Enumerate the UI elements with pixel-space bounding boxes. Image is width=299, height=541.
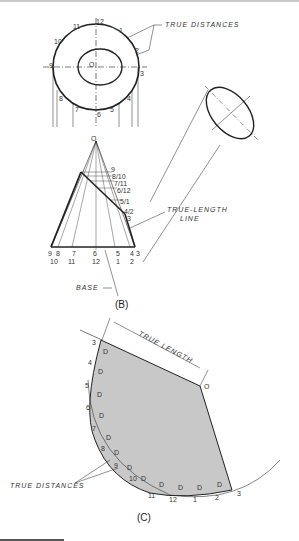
svg-text:D: D	[178, 484, 183, 491]
svg-text:7: 7	[92, 425, 96, 432]
svg-text:D: D	[197, 484, 202, 491]
svg-text:8: 8	[59, 95, 63, 102]
svg-text:1: 1	[119, 27, 123, 34]
caption-c: (C)	[137, 512, 151, 523]
svg-text:11: 11	[68, 258, 75, 265]
svg-text:D: D	[159, 481, 164, 488]
svg-text:12: 12	[96, 18, 104, 25]
svg-text:9: 9	[111, 166, 115, 173]
caption-b: (B)	[115, 299, 128, 310]
svg-text:3: 3	[92, 339, 96, 346]
svg-text:9: 9	[114, 462, 118, 469]
svg-text:12: 12	[169, 496, 177, 503]
svg-text:3: 3	[127, 215, 131, 222]
svg-text:11: 11	[73, 23, 80, 30]
cone-front-view	[51, 141, 165, 296]
svg-text:10: 10	[129, 475, 137, 482]
svg-text:6/12: 6/12	[117, 187, 131, 194]
svg-text:D: D	[217, 481, 222, 488]
svg-text:3: 3	[237, 490, 241, 497]
svg-text:6: 6	[86, 404, 90, 411]
svg-text:9: 9	[48, 250, 52, 257]
base-note: BASE	[76, 284, 99, 291]
svg-text:D: D	[106, 434, 111, 441]
svg-text:6: 6	[93, 250, 97, 257]
svg-text:8: 8	[101, 445, 105, 452]
circle-labels: 12 1 2 3 4 5 6 7 8 9 10 11 O	[49, 18, 144, 118]
svg-text:D: D	[127, 464, 132, 471]
svg-text:D: D	[97, 391, 102, 398]
svg-text:4: 4	[130, 250, 134, 257]
svg-text:5/1: 5/1	[120, 198, 130, 205]
svg-text:O: O	[89, 61, 95, 68]
svg-text:7/11: 7/11	[114, 180, 127, 187]
svg-text:3: 3	[140, 70, 144, 77]
true-distances-note-c: TRUE DISTANCES	[10, 482, 85, 489]
true-length-line-note-2: LINE	[180, 215, 200, 222]
svg-text:D: D	[141, 475, 146, 482]
svg-text:O: O	[204, 383, 210, 390]
svg-text:11: 11	[148, 492, 155, 499]
svg-text:D: D	[99, 412, 104, 419]
svg-text:O: O	[91, 135, 97, 142]
svg-text:2: 2	[130, 258, 134, 265]
svg-text:5: 5	[110, 106, 114, 113]
true-length-line-note: TRUE-LENGTH	[167, 206, 228, 213]
svg-text:8: 8	[56, 250, 60, 257]
svg-text:1: 1	[193, 496, 197, 503]
svg-text:1: 1	[116, 258, 120, 265]
svg-text:7: 7	[72, 250, 76, 257]
svg-text:D: D	[103, 348, 108, 355]
svg-text:4/2: 4/2	[124, 208, 134, 215]
auxiliary-view	[143, 78, 263, 262]
svg-text:6: 6	[97, 111, 101, 118]
svg-text:10: 10	[50, 258, 58, 265]
top-view	[43, 18, 162, 128]
svg-text:D: D	[98, 368, 103, 375]
cone-labels: O 9 8/10 7/11 6/12 5/1 4/2 3 9 8 7 6 5 4…	[48, 135, 140, 265]
svg-text:3: 3	[136, 250, 140, 257]
true-distances-note-b: TRUE DISTANCES	[165, 21, 240, 28]
svg-text:9: 9	[49, 62, 53, 69]
svg-text:2: 2	[215, 494, 219, 501]
svg-text:7: 7	[75, 106, 79, 113]
svg-text:8/10: 8/10	[112, 173, 126, 180]
svg-text:5: 5	[116, 250, 120, 257]
svg-text:4: 4	[88, 359, 92, 366]
svg-text:2: 2	[135, 47, 139, 54]
svg-text:12: 12	[92, 258, 100, 265]
svg-text:4: 4	[127, 95, 131, 102]
svg-text:5: 5	[85, 382, 89, 389]
development-drawing: 12 1 2 3 4 5 6 7 8 9 10 11 O TRUE DISTAN…	[0, 0, 299, 541]
svg-text:10: 10	[54, 38, 62, 45]
development-pattern	[75, 318, 280, 497]
true-length-note: TRUE LENGTH	[138, 330, 195, 365]
svg-text:D: D	[114, 449, 119, 456]
